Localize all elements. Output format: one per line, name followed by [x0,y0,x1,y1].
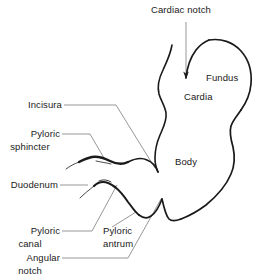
label-incisura: Incisura [0,99,62,112]
label-duodenum-text: Duodenum [11,179,58,190]
label-angular-notch-line1: Angular [27,252,60,263]
label-angular-notch: Angular notch [0,252,60,277]
label-angular-notch-line2: notch [0,265,60,278]
duodenum-lower-stroke [80,186,94,198]
label-pyloric-sphincter-line2: sphincter [0,141,60,154]
lesser-curvature-upper [155,45,172,172]
pyloric-antrum-lower [115,187,139,215]
greater-curvature-lower [162,199,181,221]
incisura-to-pylorus [128,159,158,172]
label-pyloric-canal: Pyloric canal [0,225,60,250]
label-cardiac-notch: Cardiac notch [151,4,211,17]
label-body: Body [175,156,197,169]
stomach-diagram: Cardiac notch Fundus Cardia Body Incisur… [0,0,270,280]
label-body-text: Body [175,156,197,167]
pylorus-lower-contour [94,182,115,187]
leader-pyloric-sphincter [62,134,104,158]
label-fundus-text: Fundus [206,72,238,83]
angular-notch-peak [139,199,162,218]
label-pyloric-antrum-line1: Pyloric [103,225,132,236]
duodenum-upper-stroke [66,162,79,169]
stomach-outline [66,39,251,220]
label-pyloric-antrum: Pyloric antrum [103,225,133,250]
label-incisura-text: Incisura [28,99,62,110]
label-cardia-text: Cardia [184,91,213,102]
label-pyloric-canal-line1: Pyloric [31,225,60,236]
label-duodenum: Duodenum [0,179,58,192]
leader-lines [60,22,186,258]
label-cardiac-notch-text: Cardiac notch [151,4,211,15]
label-pyloric-sphincter-line1: Pyloric [31,128,60,139]
label-fundus: Fundus [206,72,238,85]
label-pyloric-canal-line2: canal [0,238,60,251]
label-cardia: Cardia [184,91,213,104]
label-pyloric-sphincter: Pyloric sphincter [0,128,60,153]
label-pyloric-antrum-line2: antrum [103,238,133,251]
